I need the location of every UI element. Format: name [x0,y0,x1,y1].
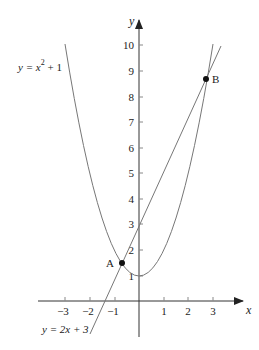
y-ticks [139,45,143,276]
line-curve [90,46,221,334]
y-tick-label: 8 [129,91,135,103]
y-tick-label: 6 [129,142,135,154]
x-tick-label: 1 [161,305,167,317]
y-tick-label: 10 [123,39,135,51]
y-tick-labels: 1 2 3 4 5 6 7 8 9 10 [123,39,135,282]
point-a-marker [119,260,125,266]
graph-svg: −3 −2 −1 1 2 3 1 2 3 4 5 6 7 8 9 10 x y [0,0,259,350]
y-tick-label: 4 [129,193,135,205]
y-tick-label: 3 [129,218,135,230]
x-tick-label: 2 [185,305,191,317]
line-label: y = 2x + 3 [41,323,89,335]
y-tick-label: 7 [129,116,135,128]
point-a-label: A [106,257,114,269]
graph-figure: −3 −2 −1 1 2 3 1 2 3 4 5 6 7 8 9 10 x y [0,0,259,350]
x-tick-label: −1 [107,305,119,317]
x-tick-labels: −3 −2 −1 1 2 3 [57,305,216,317]
x-axis-label: x [245,303,252,317]
parabola-label: y = x2 + 1 [17,58,62,73]
x-tick-label: 3 [210,305,216,317]
x-tick-label: −2 [82,305,94,317]
parabola-label-tail: + 1 [45,61,62,73]
point-b-marker [203,76,209,82]
y-tick-label: 5 [129,167,135,179]
parabola-label-main: y = x [17,61,41,73]
point-b-label: B [212,73,219,85]
x-tick-label: −3 [57,305,69,317]
y-tick-label: 9 [129,65,135,77]
y-tick-label: 2 [129,244,135,256]
y-axis-label: y [128,14,135,28]
